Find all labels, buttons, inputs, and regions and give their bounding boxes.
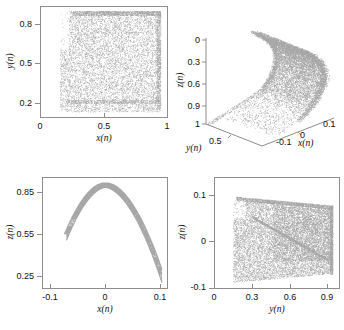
panel-xy-yaxis-label: y(n)	[5, 41, 15, 81]
panel-zy-xticklabel: 0.6	[284, 292, 297, 302]
panel-zx-points	[43, 178, 167, 288]
panel-zy-ytick-mark	[209, 241, 214, 242]
panel-zy-xticklabel: 0	[211, 292, 216, 302]
panel-zx-xticklabel: 0.1	[154, 292, 167, 302]
panel-zx-scatter: -0.1 0 0.1 0.25 0.55 0.85 x(n) z(n)	[0, 165, 172, 330]
panel-zx-axes	[42, 177, 168, 289]
panel-zx-xaxis-label: x(n)	[97, 304, 112, 314]
panel-zy-ytick-mark	[209, 195, 214, 196]
panel-xy-scatter: 0 0.5 1 0.2 0.5 0.8 x(n) y(n)	[0, 0, 172, 165]
panel-xy-ytick-mark	[35, 103, 40, 104]
panel-zx-yticklabel: 0.25	[4, 271, 34, 281]
panel-zx-xtick-mark	[160, 284, 161, 289]
panel-zy-xticklabel: 0.3	[246, 292, 259, 302]
panel-zy-axes	[214, 177, 340, 289]
panel-xy-xtick-mark	[104, 113, 105, 118]
panel-zx-xtick-mark	[105, 284, 106, 289]
panel-zy-scatter: 0 0.3 0.6 0.9 -0.1 0 0.1 y(n) z(n)	[172, 165, 344, 330]
panel-zy-yticklabel: 0.1	[174, 190, 206, 200]
panel-xy-xaxis-label: x(n)	[96, 133, 111, 143]
panel-zy-xtick-mark	[214, 284, 215, 289]
panel-3d-zticklabel: 0.9	[176, 101, 200, 111]
panel-3d-zaxis-label: z(n)	[175, 60, 185, 100]
panel-zy-yticklabel: -0.1	[174, 282, 206, 292]
panel-xy-xtick-mark	[167, 113, 168, 118]
panel-xy-xtick-mark	[40, 113, 41, 118]
panel-xy-points	[41, 7, 167, 117]
panel-zx-yaxis-label: z(n)	[5, 212, 15, 252]
panel-zx-ytick-mark	[37, 234, 42, 235]
panel-xy-ytick-mark	[35, 63, 40, 64]
panel-zy-xticklabel: 0.9	[321, 292, 334, 302]
panel-3d-xticklabel: -0.1	[276, 137, 292, 147]
panel-xy-xticklabel: 1	[164, 121, 169, 131]
panel-zx-ytick-mark	[37, 276, 42, 277]
panel-zx-xticklabel: 0	[102, 292, 107, 302]
panel-zy-xaxis-label: y(n)	[269, 304, 284, 314]
panel-xy-yticklabel: 0.2	[8, 98, 32, 108]
panel-zy-xtick-mark	[252, 284, 253, 289]
panel-zx-xtick-mark	[50, 284, 51, 289]
panel-3d-xaxis-label: x(n)	[298, 138, 313, 148]
panel-zx-xticklabel: -0.1	[42, 292, 58, 302]
panel-3d-xticklabel: 0.1	[323, 119, 336, 129]
panel-xy-yticklabel: 0.8	[8, 19, 32, 29]
panel-xy-xticklabel: 0.5	[98, 121, 111, 131]
multi-panel-figure: 0 0.5 1 0.2 0.5 0.8 x(n) y(n)	[0, 0, 344, 330]
panel-zx-ytick-mark	[37, 192, 42, 193]
panel-3d-zticklabel: 0	[180, 35, 200, 45]
panel-3d-yaxis-label: y(n)	[186, 143, 201, 153]
panel-xy-xticklabel: 0	[37, 121, 42, 131]
panel-3d-yticklabel: 1	[182, 119, 200, 129]
panel-3d-yticklabel: 0.5	[209, 136, 222, 146]
panel-zx-yticklabel: 0.85	[4, 187, 34, 197]
panel-zy-ytick-mark	[209, 288, 214, 289]
panel-xy-axes	[40, 6, 168, 118]
panel-3d-scatter: 0 0.3 0.6 0.9 1 0.5 -0.1 0 0.1 z(n) y(n)…	[172, 0, 344, 165]
panel-zy-points	[215, 178, 339, 288]
panel-zy-yaxis-label: z(n)	[177, 212, 187, 252]
panel-zy-xtick-mark	[327, 284, 328, 289]
panel-zy-xtick-mark	[290, 284, 291, 289]
panel-xy-ytick-mark	[35, 24, 40, 25]
